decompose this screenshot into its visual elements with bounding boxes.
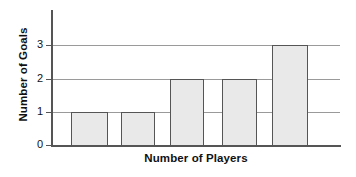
y-tick-mark-2 <box>46 79 53 80</box>
x-axis-line <box>51 145 341 147</box>
y-tick-mark-0 <box>46 145 53 146</box>
x-axis-title: Number of Players <box>52 152 340 164</box>
y-tick-mark-1 <box>46 112 53 113</box>
bar-2 <box>121 112 155 146</box>
bar-3 <box>170 79 204 147</box>
bar-1 <box>71 112 108 146</box>
y-tick-mark-3 <box>46 45 53 46</box>
y-axis-title: Number of Goals <box>10 2 36 147</box>
bar-5 <box>272 45 308 146</box>
bar-chart: 3 2 1 0 Number of Goals Number of Player… <box>0 0 356 177</box>
bar-4 <box>222 79 257 147</box>
plot-area: 3 2 1 0 <box>0 0 356 177</box>
